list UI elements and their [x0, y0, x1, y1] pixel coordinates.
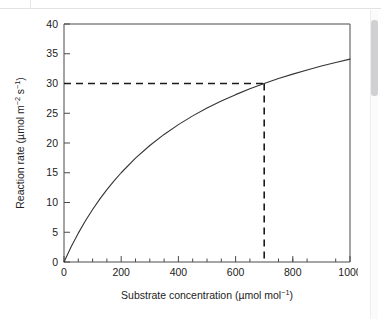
y-axis-title-superscript-1: −2: [13, 97, 22, 105]
y-tick-label: 30: [46, 77, 58, 89]
y-tick-label: 15: [46, 166, 58, 178]
x-tick-label: 800: [284, 266, 302, 278]
x-axis-title-superscript: −1: [281, 288, 289, 297]
x-tick-label: 0: [61, 266, 67, 278]
x-axis-title-tail: ): [289, 289, 293, 301]
y-tick-label: 40: [46, 18, 58, 30]
y-axis-title-main: Reaction rate (µmol m: [14, 105, 26, 209]
x-axis-minor-ticks: [78, 259, 335, 263]
y-axis-tick-labels: 0 5 10 15 20 25 30 35 40: [46, 18, 58, 268]
guide-lines: [64, 84, 264, 263]
y-axis-major-ticks: [64, 24, 70, 262]
y-tick-label: 0: [52, 256, 58, 268]
plot-axes: [64, 24, 350, 262]
chart-figure: 0 5 10 15 20 25 30 35 40: [0, 0, 358, 319]
x-tick-label: 600: [227, 266, 245, 278]
y-axis-title-tail: ): [14, 77, 26, 81]
figure-page: 0 5 10 15 20 25 30 35 40: [0, 0, 381, 319]
y-tick-label: 25: [46, 107, 58, 119]
x-tick-label: 200: [112, 266, 130, 278]
x-tick-label: 400: [170, 266, 188, 278]
x-axis-tick-labels: 0 200 400 600 800 1000: [61, 266, 358, 278]
x-axis-title: Substrate concentration (µmol mol−1): [121, 288, 293, 301]
x-axis-title-main: Substrate concentration (µmol mol: [121, 289, 281, 301]
reaction-rate-curve: [64, 59, 350, 262]
y-tick-label: 20: [46, 137, 58, 149]
y-axis-title-mid: s: [14, 89, 26, 97]
vertical-scrollbar-thumb[interactable]: [371, 20, 378, 96]
y-tick-label: 10: [46, 196, 58, 208]
reaction-rate-chart: 0 5 10 15 20 25 30 35 40: [0, 0, 358, 319]
y-tick-label: 35: [46, 47, 58, 59]
x-tick-label: 1000: [338, 266, 358, 278]
y-axis-title: Reaction rate (µmol m−2 s−1): [13, 77, 26, 209]
y-axis-title-superscript-2: −1: [13, 81, 22, 89]
y-tick-label: 5: [52, 226, 58, 238]
